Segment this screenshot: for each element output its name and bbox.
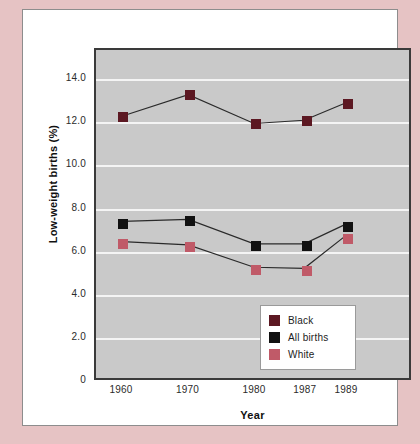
data-point-marker <box>185 242 195 252</box>
legend-label: Black <box>288 315 313 326</box>
legend-label: All births <box>288 332 328 343</box>
data-point-marker <box>118 112 128 122</box>
page-background: Low-weight births (%) 02.04.06.08.010.01… <box>0 0 420 444</box>
data-point-marker <box>185 90 195 100</box>
x-axis-tick-label: 1960 <box>91 384 151 395</box>
data-point-marker <box>343 222 353 232</box>
legend-item: White <box>269 346 348 363</box>
data-point-marker <box>118 219 128 229</box>
data-point-marker <box>251 119 261 129</box>
y-axis-tick-label: 14.0 <box>44 72 86 83</box>
y-axis-tick-label: 0 <box>44 374 86 385</box>
data-point-marker <box>302 241 312 251</box>
y-axis-tick-label: 10.0 <box>44 158 86 169</box>
data-point-marker <box>302 116 312 126</box>
data-point-marker <box>185 216 195 226</box>
y-axis-tick-label: 8.0 <box>44 202 86 213</box>
y-axis-tick-label: 2.0 <box>44 331 86 342</box>
plot-area <box>94 48 411 380</box>
legend-label: White <box>288 349 315 360</box>
series-line <box>123 219 345 243</box>
data-point-marker <box>343 99 353 109</box>
data-point-marker <box>343 234 353 244</box>
legend-item: Black <box>269 312 348 329</box>
y-axis-tick-label: 4.0 <box>44 288 86 299</box>
data-point-marker <box>251 265 261 275</box>
x-axis-tick-label: 1970 <box>158 384 218 395</box>
data-point-marker <box>302 266 312 276</box>
legend-swatch-icon <box>269 349 280 360</box>
plot-inner <box>96 50 409 378</box>
y-axis-tick-label: 12.0 <box>44 115 86 126</box>
data-point-marker <box>251 241 261 251</box>
y-axis-tick-label: 6.0 <box>44 245 86 256</box>
data-point-marker <box>118 239 128 249</box>
y-axis-tick-group: 02.04.06.08.010.012.014.0 <box>23 10 94 444</box>
legend-swatch-icon <box>269 332 280 343</box>
x-axis-title: Year <box>94 409 411 421</box>
legend-swatch-icon <box>269 315 280 326</box>
legend-item: All births <box>269 329 348 346</box>
figure-card: Low-weight births (%) 02.04.06.08.010.01… <box>22 9 398 426</box>
chart-legend: BlackAll birthsWhite <box>260 305 356 370</box>
series-lines <box>96 50 409 378</box>
x-axis-tick-label: 1989 <box>316 384 376 395</box>
